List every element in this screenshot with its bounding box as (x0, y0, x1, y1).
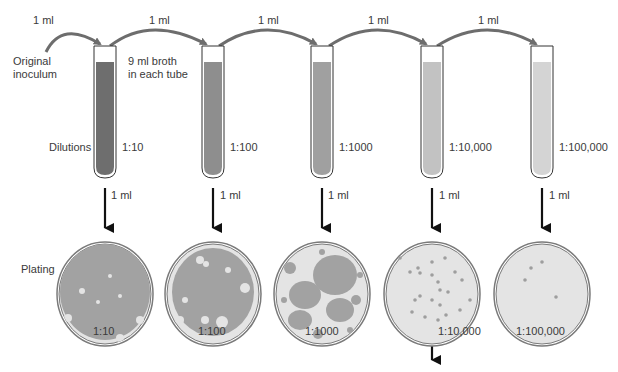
plate-dilution-2: 1:100 (198, 325, 226, 338)
transfer-arrow-3 (329, 30, 426, 46)
tube-dilution-3: 1:1000 (339, 141, 373, 154)
plate-dilution-4: 1:10,000 (438, 325, 481, 338)
plate-dilution-3: 1:1000 (305, 325, 339, 338)
transfer-arrow-1 (110, 30, 206, 46)
tube-4 (421, 46, 443, 178)
transfer-label-0: 1 ml (33, 14, 54, 27)
tube-3 (311, 46, 333, 178)
plating-volume-5: 1 ml (549, 189, 570, 202)
tube-5 (531, 46, 553, 178)
transfer-arrows (46, 30, 536, 52)
plating-volume-3: 1 ml (328, 189, 349, 202)
dilutions-label: Dilutions (49, 141, 91, 154)
tube-2 (202, 46, 224, 178)
tube-dilution-1: 1:10 (122, 141, 143, 154)
transfer-label-2: 1 ml (258, 14, 279, 27)
transfer-label-3: 1 ml (368, 14, 389, 27)
transfer-arrow-0 (46, 34, 100, 52)
plating-volume-1: 1 ml (111, 189, 132, 202)
tube-1 (94, 46, 116, 178)
plate-dilution-1: 1:10 (93, 325, 114, 338)
plating-volume-4: 1 ml (439, 189, 460, 202)
tube-dilution-2: 1:100 (230, 141, 258, 154)
transfer-arrow-2 (219, 30, 316, 46)
broth-note: 9 ml broth in each tube (128, 55, 188, 81)
tube-dilution-5: 1:100,000 (559, 141, 608, 154)
plating-label: Plating (21, 263, 55, 276)
transfer-label-4: 1 ml (478, 14, 499, 27)
transfer-label-1: 1 ml (149, 14, 170, 27)
plating-volume-2: 1 ml (220, 189, 241, 202)
tube-dilution-4: 1:10,000 (449, 141, 492, 154)
serial-dilution-diagram (0, 0, 618, 372)
original-inoculum-label: Original inoculum (13, 55, 57, 81)
transfer-arrow-4 (437, 30, 536, 46)
plate-dilution-5: 1:100,000 (516, 325, 565, 338)
